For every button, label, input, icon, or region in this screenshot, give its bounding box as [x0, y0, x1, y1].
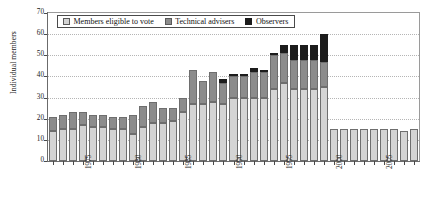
bar-segment-advisers: [59, 115, 67, 130]
bar-segment-votes: [240, 98, 248, 161]
x-tick-mark: [264, 161, 265, 165]
bar-segment-votes: [250, 98, 258, 161]
bar-segment-advisers: [310, 60, 318, 90]
bar-segment-advisers: [109, 117, 117, 130]
y-tick-label: 0: [26, 157, 44, 165]
y-tick-value: 30: [28, 94, 44, 101]
x-tick-label: 1980: [136, 155, 143, 169]
bar-segment-advisers: [69, 112, 77, 129]
bar-segment-advisers: [169, 108, 177, 121]
bar-segment-votes: [169, 121, 177, 161]
x-tick-label: 2005: [387, 155, 394, 169]
x-tick-mark: [354, 161, 355, 165]
bar-segment-votes: [49, 131, 57, 161]
bar-segment-advisers: [260, 72, 268, 97]
x-tick-mark: [274, 161, 275, 165]
legend-swatch-advisers-icon: [165, 18, 172, 25]
bar-segment-votes: [290, 89, 298, 161]
x-tick-mark: [153, 161, 154, 165]
bar-segment-advisers: [49, 117, 57, 132]
x-tick-mark: [123, 161, 124, 165]
bar-segment-votes: [370, 129, 378, 161]
bar-1982: [149, 102, 157, 161]
bar-segment-advisers: [79, 112, 87, 125]
bar-segment-advisers: [300, 60, 308, 90]
x-tick-mark: [63, 161, 64, 165]
x-tick-mark: [344, 161, 345, 165]
bar-segment-advisers: [119, 117, 127, 130]
y-tick-label: 30: [26, 94, 44, 102]
x-tick-mark: [203, 161, 204, 165]
y-tick-label: 40: [26, 72, 44, 80]
bar-1987: [199, 81, 207, 161]
x-tick-mark: [384, 161, 385, 165]
bar-1983: [159, 108, 167, 161]
bar-segment-advisers: [189, 70, 197, 104]
plot-border-right: [419, 12, 420, 162]
x-tick-mark: [93, 161, 94, 165]
y-tick-value: 70: [28, 9, 44, 16]
y-tick-label: 50: [26, 51, 44, 59]
chart-container: Individual members 010203040506070 19751…: [0, 0, 430, 212]
bar-1996: [290, 45, 298, 161]
y-tick-label: 70: [26, 9, 44, 17]
x-tick-mark: [173, 161, 174, 165]
x-tick-mark: [234, 161, 235, 165]
x-tick-mark: [314, 161, 315, 165]
bar-segment-advisers: [270, 55, 278, 89]
legend-label-advisers: Technical advisers: [175, 18, 234, 26]
bar-1978: [109, 117, 117, 161]
bar-segment-advisers: [250, 72, 258, 97]
bar-1992: [250, 68, 258, 161]
bar-1994: [270, 53, 278, 161]
bar-segment-votes: [350, 129, 358, 161]
x-tick-mark: [163, 161, 164, 165]
x-tick-mark: [103, 161, 104, 165]
bar-segment-advisers: [320, 62, 328, 87]
x-tick-mark: [294, 161, 295, 165]
x-tick-mark: [223, 161, 224, 165]
bar-segment-votes: [189, 104, 197, 161]
legend-item-advisers: Technical advisers: [165, 18, 235, 26]
bar-1988: [209, 72, 217, 161]
y-tick-label: 60: [26, 30, 44, 38]
x-tick-label: 1990: [237, 155, 244, 169]
bar-1972: [49, 117, 57, 161]
x-tick-label: 1975: [86, 155, 93, 169]
x-tick-label: 1985: [186, 155, 193, 169]
bar-segment-advisers: [229, 76, 237, 97]
bar-2004: [370, 129, 378, 161]
y-tick-value: 50: [28, 51, 44, 58]
y-tick-label: 10: [26, 136, 44, 144]
bar-2007: [400, 131, 408, 161]
legend-item-votes: Members eligible to vote: [63, 18, 154, 26]
bar-segment-observers: [310, 45, 318, 60]
bar-segment-votes: [360, 129, 368, 161]
bar-segment-advisers: [179, 98, 187, 113]
bar-segment-advisers: [199, 81, 207, 104]
x-tick-mark: [284, 161, 285, 165]
x-tick-mark: [404, 161, 405, 165]
x-tick-mark: [374, 161, 375, 165]
bar-1998: [310, 45, 318, 161]
y-tick-value: 10: [28, 136, 44, 143]
chart-legend: Members eligible to vote Technical advis…: [57, 15, 295, 28]
bar-segment-votes: [119, 129, 127, 161]
bar-segment-votes: [99, 127, 107, 161]
bar-segment-observers: [270, 53, 278, 55]
bar-segment-observers: [300, 45, 308, 60]
bar-segment-advisers: [290, 60, 298, 90]
x-tick-mark: [334, 161, 335, 165]
bar-2008: [410, 129, 418, 161]
bar-1977: [99, 115, 107, 162]
x-tick-label: 1995: [287, 155, 294, 169]
bar-segment-votes: [59, 129, 67, 161]
bar-segment-advisers: [99, 115, 107, 128]
bar-segment-advisers: [280, 53, 288, 83]
x-tick-mark: [394, 161, 395, 165]
x-tick-mark: [213, 161, 214, 165]
legend-label-observers: Observers: [256, 18, 288, 26]
x-tick-mark: [254, 161, 255, 165]
bar-segment-votes: [400, 131, 408, 161]
x-tick-mark: [304, 161, 305, 165]
